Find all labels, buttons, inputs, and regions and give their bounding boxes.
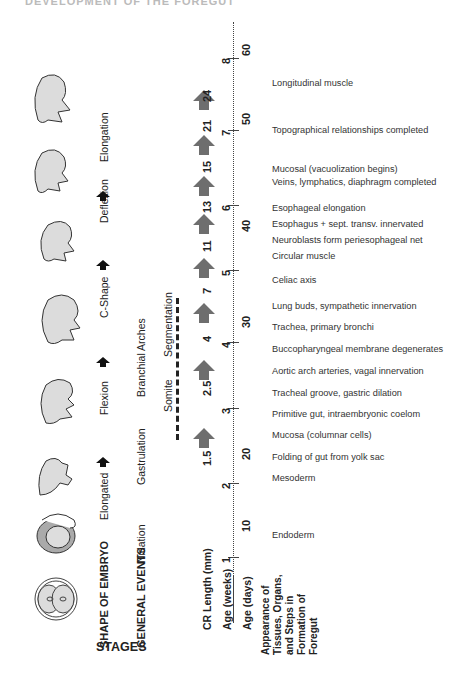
event-item: Esophageal elongation: [272, 203, 366, 213]
gray-arrow-icon: [193, 214, 215, 234]
age-week-label: 6: [220, 205, 232, 211]
age-week-label: 1: [220, 557, 232, 563]
appearance-header-5: Foregut: [308, 618, 319, 655]
age-week-label: 3: [220, 408, 232, 414]
black-arrow-icon: [96, 260, 110, 270]
age-day-label: 40: [240, 220, 252, 232]
age-day-label: 20: [240, 448, 252, 460]
cr-length-value: 7: [201, 288, 213, 294]
cr-length-value: 24: [201, 90, 213, 102]
event-segmentation: Segmentation: [162, 292, 174, 357]
black-arrow-icon: [96, 191, 110, 201]
age-day-label: 10: [240, 520, 252, 532]
event-item: Esophagus + sept. transv. innervated: [272, 219, 423, 229]
event-item: Longitudinal muscle: [272, 78, 353, 88]
event-item: Folding of gut from yolk sac: [272, 452, 384, 462]
event-item: Tracheal groove, gastric dilation: [272, 388, 402, 398]
page-title-partial: DEVELOPMENT OF THE FOREGUT: [25, 0, 235, 7]
stage-deflexion-embryo-icon: [34, 215, 78, 263]
event-item: Primitive gut, intraembryonic coelom: [272, 409, 420, 419]
appearance-header-3: and Steps in: [284, 596, 295, 655]
age-day-label: 60: [240, 44, 252, 56]
age-weeks-header: Age (weeks): [221, 569, 233, 630]
cr-length-value: 4: [201, 336, 213, 342]
event-item: Topographical relationships completed: [272, 125, 428, 135]
shape-elongated: Elongated: [98, 473, 110, 520]
event-somite: Somite: [162, 379, 174, 412]
age-axis-line: [233, 22, 234, 622]
cr-length-value: 2.5: [201, 381, 213, 396]
black-arrow-icon: [96, 457, 110, 467]
event-branchial-arches: Branchial Arches: [135, 318, 147, 397]
event-item: Trachea, primary bronchi: [272, 322, 374, 332]
stage-c-shape-embryo-icon: [36, 290, 82, 346]
event-item: Neuroblasts form periesophageal net: [272, 235, 423, 245]
age-days-header: Age (days): [241, 576, 253, 630]
event-gastrulation: Gastrulation: [135, 428, 147, 485]
event-item: Mucosa (columnar cells): [272, 430, 372, 440]
cr-length-value: 13: [201, 201, 213, 213]
shape-c-shape: C-Shape: [98, 277, 110, 318]
gray-arrow-icon: [193, 428, 215, 448]
cr-length-value: 1.5: [201, 451, 213, 466]
gray-arrow-icon: [193, 176, 215, 196]
age-week-label: 4: [220, 342, 232, 348]
event-item: Aortic arch arteries, vagal innervation: [272, 366, 424, 376]
stage-flexion-embryo-icon: [36, 375, 80, 427]
event-item: Mesoderm: [272, 473, 315, 483]
age-day-label: 30: [240, 316, 252, 328]
event-item: Endoderm: [272, 530, 314, 540]
somite-segmentation-dashed-line: [176, 298, 179, 440]
event-item: Buccopharyngeal membrane degenerates: [272, 344, 443, 354]
stage-elongation-embryo-icon-1: [30, 145, 72, 195]
cr-length-header: CR Length (mm): [201, 548, 213, 630]
appearance-header-4: Formation of: [296, 594, 307, 655]
stage-elongated-embryo-icon: [34, 455, 74, 500]
gray-arrow-icon: [193, 258, 215, 278]
stage-blastocyst-icon: [34, 510, 80, 556]
gray-arrow-icon: [193, 135, 215, 155]
appearance-header-1: Appearance of: [260, 586, 271, 655]
cr-length-value: 21: [201, 120, 213, 132]
shape-of-embryo-header: SHAPE OF EMBRYO: [98, 541, 110, 648]
event-nidation: Nidation: [135, 524, 147, 563]
stage-fetus-embryo-icon: [30, 70, 72, 125]
cr-length-value: 15: [201, 161, 213, 173]
stage-zygote-icon: [32, 575, 80, 623]
age-week-label: 2: [220, 483, 232, 489]
event-item: Veins, lymphatics, diaphragm completed: [272, 177, 436, 187]
gray-arrow-icon: [193, 303, 215, 323]
appearance-header-2: Tissues, Organs,: [272, 575, 283, 655]
age-week-label: 8: [220, 58, 232, 64]
age-week-label: 7: [220, 130, 232, 136]
gray-arrow-icon: [193, 360, 215, 380]
shape-elongation: Elongation: [98, 112, 110, 162]
cr-length-value: 11: [201, 240, 213, 252]
shape-deflexion: Deflexion: [98, 179, 110, 223]
event-item: Mucosal (vacuolization begins): [272, 164, 398, 174]
event-item: Lung buds, sympathetic innervation: [272, 301, 417, 311]
age-day-label: 50: [240, 113, 252, 125]
black-arrow-icon: [96, 357, 110, 367]
shape-flexion: Flexion: [98, 381, 110, 415]
event-item: Celiac axis: [272, 275, 316, 285]
age-week-label: 5: [220, 270, 232, 276]
event-item: Circular muscle: [272, 251, 335, 261]
